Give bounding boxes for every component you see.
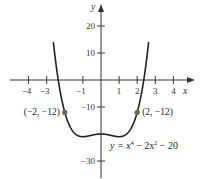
y-axis-arrow-icon — [98, 4, 104, 12]
x-axis-arrow-icon — [187, 77, 195, 83]
x-tick-label: −1 — [76, 86, 86, 96]
x-tick-label: 2 — [135, 86, 140, 96]
x-tick-label: 3 — [153, 86, 158, 96]
y-axis-label: y — [90, 1, 96, 12]
x-ticks: −4−3−11234 — [22, 76, 176, 96]
point-label: (2, −12) — [142, 107, 173, 118]
x-tick-label: 4 — [171, 86, 176, 96]
y-tick-label: −10 — [81, 102, 96, 112]
annotated-points: (−2, −12)(2, −12) — [24, 107, 173, 118]
data-point — [62, 110, 67, 115]
x-tick-label: −4 — [22, 86, 32, 96]
equation-label: y = x4 − 2x2 − 20 — [109, 140, 178, 151]
function-graph: x y −4−3−11234 2010−10−30 (−2, −12)(2, −… — [0, 0, 201, 179]
y-tick-label: 10 — [86, 48, 96, 58]
x-tick-label: −3 — [40, 86, 50, 96]
point-label: (−2, −12) — [24, 107, 60, 118]
x-tick-label: 1 — [117, 86, 122, 96]
y-tick-label: 20 — [86, 21, 96, 31]
y-tick-label: −30 — [81, 156, 96, 166]
x-axis-label: x — [182, 85, 188, 96]
data-point — [135, 110, 140, 115]
